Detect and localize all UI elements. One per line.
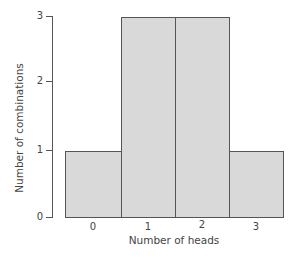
y-tick-0	[46, 217, 53, 218]
y-tick-label: 0	[29, 212, 43, 222]
y-tick-label: 2	[29, 76, 43, 86]
y-axis-line	[52, 16, 53, 218]
x-tick-label: 2	[192, 220, 212, 230]
bar-1-heads	[121, 17, 176, 218]
y-tick-label: 3	[29, 11, 43, 21]
bar-2-heads	[175, 17, 230, 218]
bar-0-heads	[65, 151, 122, 218]
y-tick-2	[46, 81, 53, 82]
x-tick-label: 3	[246, 222, 266, 232]
y-axis-label: Number of combinations	[13, 63, 25, 193]
y-tick-1	[46, 150, 53, 151]
histogram-chart: 0 1 2 3 0 1 2 3 Number of heads Number o…	[0, 0, 296, 258]
x-tick-label: 1	[138, 222, 158, 232]
y-tick-label: 1	[29, 145, 43, 155]
x-axis-label: Number of heads	[120, 234, 228, 246]
bar-3-heads	[229, 151, 284, 218]
y-tick-3	[46, 16, 53, 17]
x-tick-label: 0	[83, 222, 103, 232]
